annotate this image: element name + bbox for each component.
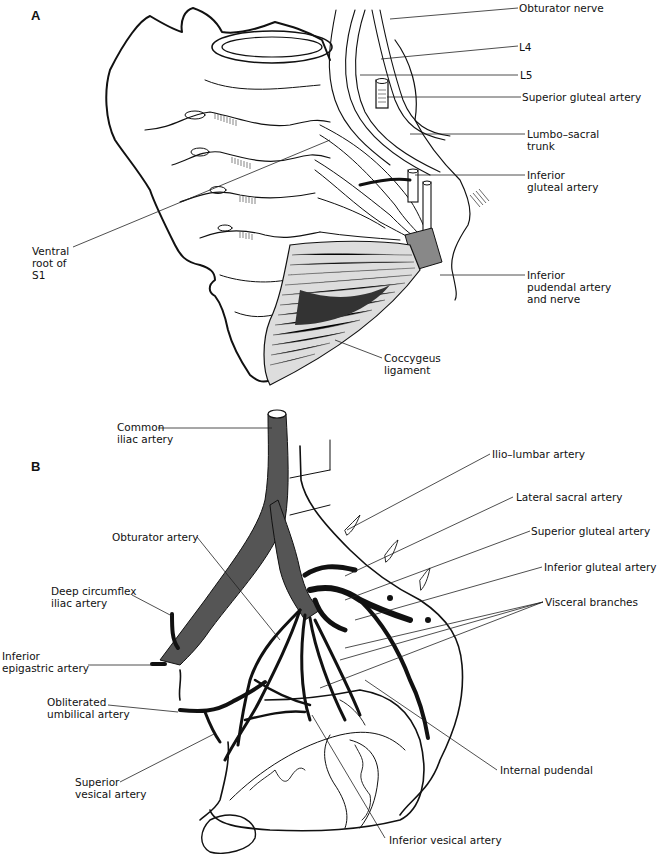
label-l5: L5 [520, 69, 533, 81]
label-obturator-artery: Obturator artery [112, 531, 199, 543]
label-common-iliac-artery: Common iliac artery [117, 421, 173, 445]
label-lateral-sacral-artery: Lateral sacral artery [516, 491, 622, 503]
label-inferior-gluteal-artery-b: Inferior gluteal artery [544, 561, 657, 573]
anatomical-figure: A B Obturator nerve L4 L5 Superior glute… [0, 0, 660, 854]
label-superior-vesical-artery: Superior vesical artery [75, 776, 146, 800]
label-coccygeus-ligament: Coccygeus ligament [384, 352, 441, 376]
panel-a-letter: A [31, 8, 40, 23]
label-l4: L4 [519, 41, 532, 53]
label-ventral-root-s1: Ventral root of S1 [32, 245, 69, 281]
label-inferior-vesical-artery: Inferior vesical artery [389, 834, 502, 846]
label-superior-gluteal-artery-b: Superior gluteal artery [531, 525, 650, 537]
label-inferior-gluteal-artery-a: Inferior gluteal artery [527, 169, 598, 193]
label-visceral-branches: Visceral branches [545, 596, 638, 608]
label-lumbo-sacral-trunk: Lumbo–sacral trunk [527, 128, 599, 152]
label-deep-circumflex-iliac-artery: Deep circumflex iliac artery [51, 585, 137, 609]
label-internal-pudendal: Internal pudendal [500, 764, 593, 776]
label-inferior-epigastric-artery: Inferior epigastric artery [2, 650, 89, 674]
label-obturator-nerve: Obturator nerve [519, 2, 604, 14]
label-obliterated-umbilical-artery: Obliterated umbilical artery [47, 696, 130, 720]
panel-b-letter: B [31, 459, 40, 474]
label-inferior-pudendal-artery-nerve: Inferior pudendal artery and nerve [527, 269, 611, 305]
label-superior-gluteal-artery-a: Superior gluteal artery [522, 91, 641, 103]
label-ilio-lumbar-artery: Ilio–lumbar artery [492, 448, 585, 460]
